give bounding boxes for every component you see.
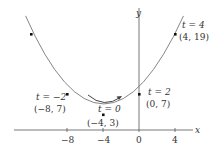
- label-t-minus-2: t = −2: [36, 92, 66, 102]
- tick-label-0: 0: [136, 135, 142, 145]
- label-coord-minus-4-3: (−4, 3): [87, 118, 119, 128]
- label-t-2: t = 2: [148, 87, 171, 97]
- y-axis-label: y: [135, 8, 142, 18]
- x-axis-label: x: [195, 125, 200, 135]
- point-t-4: [174, 33, 177, 36]
- tick-label-4: 4: [172, 135, 178, 145]
- label-coord-minus-8-7: (−8, 7): [34, 104, 66, 114]
- parametric-curve-diagram: t = −2 (−8, 7) t = 0 (−4, 3) t = 2 (0, 7…: [0, 0, 219, 148]
- point-t-minus-2: [66, 93, 69, 96]
- tick-label-minus-4: −4: [97, 135, 111, 145]
- label-t-4: t = 4: [182, 20, 205, 30]
- tick-label-minus-8: −8: [61, 135, 75, 145]
- label-t-0: t = 0: [98, 104, 121, 114]
- point-t-2: [138, 93, 141, 96]
- point-t-minus-4: [30, 33, 33, 36]
- label-coord-4-19: (4, 19): [179, 32, 209, 42]
- label-coord-0-7: (0, 7): [146, 99, 170, 109]
